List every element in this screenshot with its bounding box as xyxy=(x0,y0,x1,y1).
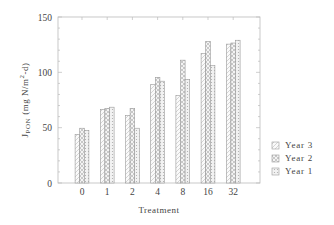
bar-year-2 xyxy=(181,60,186,183)
bar-year-3 xyxy=(151,85,156,183)
bar-year-2 xyxy=(206,41,211,183)
bar-chart: 050100150 012481632 JPON(mg N/m2-d) Trea… xyxy=(0,0,334,225)
x-tick-label: 4 xyxy=(155,187,160,197)
bar-year-2 xyxy=(105,108,110,183)
legend-label: Year 1 xyxy=(285,166,313,176)
y-tick-label: 50 xyxy=(43,123,53,133)
bar-year-1 xyxy=(135,128,140,183)
x-tick-label: 32 xyxy=(228,187,238,197)
y-tick-label: 100 xyxy=(38,68,53,78)
bar-series xyxy=(75,40,240,183)
y-tick-label: 0 xyxy=(47,179,52,189)
bar-year-1 xyxy=(110,107,115,183)
legend-swatch xyxy=(272,142,279,149)
chart-legend: Year 3Year 2Year 1 xyxy=(272,140,313,176)
legend-swatch xyxy=(272,168,279,175)
y-tick-label: 150 xyxy=(38,13,53,23)
legend-swatch xyxy=(272,155,279,162)
x-tick-label: 8 xyxy=(180,187,185,197)
bar-year-1 xyxy=(185,80,190,183)
x-tick-label: 16 xyxy=(203,187,213,197)
bar-year-1 xyxy=(210,66,215,183)
x-tick-label: 2 xyxy=(130,187,135,197)
bar-year-2 xyxy=(155,77,160,183)
bar-year-3 xyxy=(75,134,80,183)
x-tick-label: 0 xyxy=(80,187,85,197)
bar-year-3 xyxy=(201,54,206,183)
bar-year-2 xyxy=(231,43,236,183)
bar-year-2 xyxy=(80,128,85,183)
legend-label: Year 2 xyxy=(285,153,313,163)
x-tick-label: 1 xyxy=(105,187,110,197)
y-axis-title: JPON(mg N/m2-d) xyxy=(18,63,32,138)
bar-year-1 xyxy=(160,81,165,183)
bar-year-3 xyxy=(176,96,181,183)
legend-label: Year 3 xyxy=(285,140,313,150)
bar-year-1 xyxy=(84,130,89,183)
bar-year-1 xyxy=(236,40,241,183)
bar-year-3 xyxy=(226,44,231,183)
bar-year-3 xyxy=(126,115,131,183)
bar-year-3 xyxy=(100,109,105,183)
bar-year-2 xyxy=(130,108,135,183)
x-axis-title: Treatment xyxy=(138,205,179,215)
